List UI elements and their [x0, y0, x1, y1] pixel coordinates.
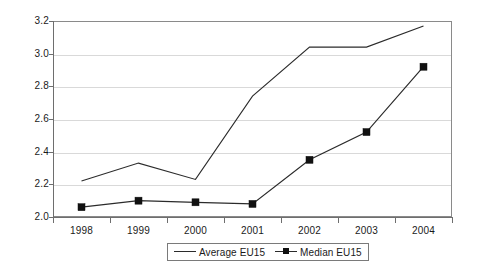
y-tick-label: 2.6 [5, 114, 49, 124]
x-tick-label: 2001 [224, 225, 281, 236]
legend-label-average-eu15: Average EU15 [199, 247, 265, 258]
y-tick-label: 2.0 [5, 212, 49, 222]
y-tick-label: 2.2 [5, 179, 49, 189]
y-tick-mark [49, 21, 53, 22]
y-axis-line [53, 21, 54, 218]
legend-swatch-line-square-marker-icon [275, 247, 297, 257]
y-tick-label: 2.8 [5, 81, 49, 91]
x-tick-label: 1998 [53, 225, 110, 236]
chart-legend: Average EU15 Median EU15 [167, 243, 369, 261]
x-tick-mark [167, 218, 168, 223]
x-tick-label: 2003 [338, 225, 395, 236]
gridline [54, 55, 451, 56]
legend-entry-average-eu15[interactable]: Average EU15 [174, 247, 265, 258]
x-tick-label: 2000 [167, 225, 224, 236]
legend-entry-median-eu15[interactable]: Median EU15 [275, 247, 362, 258]
x-tick-mark [338, 218, 339, 223]
x-tick-mark [224, 218, 225, 223]
plot-area [53, 21, 452, 217]
y-tick-label: 3.2 [5, 16, 49, 26]
y-tick-mark [49, 54, 53, 55]
y-tick-label: 3.0 [5, 49, 49, 59]
gridline [54, 87, 451, 88]
gridline [54, 153, 451, 154]
y-axis-tick-labels: 2.02.22.42.62.83.03.2 [0, 0, 49, 271]
x-tick-label: 1999 [110, 225, 167, 236]
chart-figure: 2.02.22.42.62.83.03.2 199819992000200120… [0, 0, 478, 271]
y-tick-label: 2.4 [5, 147, 49, 157]
x-tick-mark [395, 218, 396, 223]
gridline [54, 120, 451, 121]
y-tick-mark [49, 184, 53, 185]
y-tick-mark [49, 86, 53, 87]
y-tick-mark [49, 152, 53, 153]
x-tick-label: 2004 [395, 225, 452, 236]
x-axis-line [53, 217, 453, 218]
x-tick-mark [452, 218, 453, 223]
legend-swatch-line-icon [174, 247, 196, 257]
x-tick-label: 2002 [281, 225, 338, 236]
x-tick-mark [110, 218, 111, 223]
x-tick-mark [281, 218, 282, 223]
legend-label-median-eu15: Median EU15 [300, 247, 362, 258]
y-tick-mark [49, 119, 53, 120]
x-tick-mark [53, 218, 54, 223]
gridline [54, 185, 451, 186]
